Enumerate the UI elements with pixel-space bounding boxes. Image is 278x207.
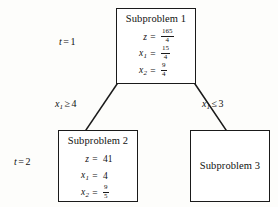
equation-value: 4	[103, 171, 108, 181]
equation-equals: =	[89, 188, 101, 198]
equation-rhs: 1654	[159, 29, 185, 45]
equation-lhs: z	[69, 154, 89, 164]
equation-lhs: x1	[69, 170, 89, 182]
branch-label-right-value: 3	[218, 98, 223, 109]
equation-row: x1=4	[59, 167, 137, 184]
stage-label-t2-value: 2	[25, 156, 30, 167]
equation-row: z=41	[59, 150, 137, 167]
fraction: 1654	[161, 28, 174, 44]
branch-label-left-value: 4	[71, 98, 76, 109]
equation-lhs: x1	[127, 48, 147, 60]
fraction-denominator: 4	[166, 37, 170, 45]
branch-label-left: x1≥4	[55, 98, 76, 111]
node-subproblem-3: Subproblem 3	[190, 130, 270, 202]
figure-canvas: t=1 t=2 x1≥4 x1≤3 Subproblem 1 z=1654x1=…	[0, 0, 278, 207]
equation-row: x2=95	[59, 184, 137, 201]
equation-row: z=1654	[117, 28, 195, 45]
equation-row: x2=94	[117, 62, 195, 79]
equation-rhs: 41	[101, 154, 127, 164]
equation-lhs: x2	[127, 65, 147, 77]
equation-equals: =	[147, 66, 159, 76]
node-subproblem-2: Subproblem 2 z=41x1=4x2=95	[58, 130, 138, 202]
equation-lhs: x2	[69, 187, 89, 199]
node-subproblem-2-title: Subproblem 2	[59, 135, 137, 147]
node-subproblem-1: Subproblem 1 z=1654x1=154x2=94	[116, 8, 196, 84]
fraction-denominator: 4	[162, 71, 166, 79]
equation-rhs: 154	[159, 46, 185, 62]
stage-label-t1: t=1	[59, 36, 75, 47]
equation-rhs: 95	[101, 185, 127, 201]
equation-row: x1=154	[117, 45, 195, 62]
stage-label-t2: t=2	[14, 156, 30, 167]
stage-label-t1-value: 1	[70, 36, 75, 47]
node-subproblem-1-equations: z=1654x1=154x2=94	[117, 28, 195, 79]
branch-label-right: x1≤3	[202, 98, 223, 111]
equation-rhs: 94	[159, 63, 185, 79]
equation-equals: =	[147, 32, 159, 42]
fraction: 154	[161, 45, 170, 61]
equation-equals: =	[89, 171, 101, 181]
fraction: 95	[103, 184, 109, 200]
fraction: 94	[161, 62, 167, 78]
node-subproblem-3-title: Subproblem 3	[191, 160, 269, 172]
equation-equals: =	[147, 49, 159, 59]
fraction-denominator: 5	[104, 193, 108, 201]
equation-rhs: 4	[101, 171, 127, 181]
fraction-denominator: 4	[164, 54, 168, 62]
edge-left-branch	[86, 84, 117, 130]
node-subproblem-1-title: Subproblem 1	[117, 13, 195, 25]
node-subproblem-2-equations: z=41x1=4x2=95	[59, 150, 137, 201]
equation-value: 41	[103, 154, 113, 164]
equation-lhs: z	[127, 32, 147, 42]
equation-equals: =	[89, 154, 101, 164]
